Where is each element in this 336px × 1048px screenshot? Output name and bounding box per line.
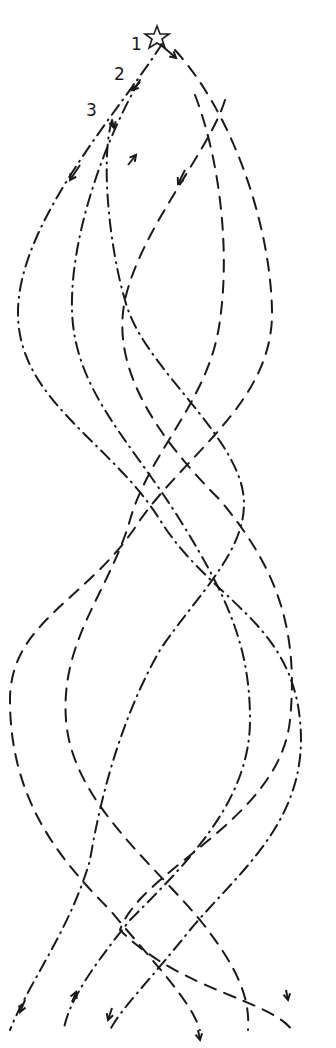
label-1: 1: [131, 34, 142, 54]
braid-diagram: 1 2 3: [0, 0, 336, 1048]
strand-dashed-a: [18, 44, 301, 1030]
arrow-icon: [132, 82, 140, 90]
braid-canvas: 1 2 3: [0, 0, 336, 1048]
strand-dashed-c: [66, 95, 249, 1030]
arrow-icon: [128, 155, 136, 165]
arrow-icon: [196, 1030, 203, 1040]
star-icon: [145, 26, 169, 48]
arrow-icon: [107, 1008, 113, 1020]
strand-dashdot-b: [10, 50, 272, 1030]
strands-group: [10, 44, 301, 1030]
arrow-icon: [284, 990, 291, 1000]
strand-dashed-b: [10, 120, 244, 1030]
arrow-icon: [19, 1000, 25, 1012]
label-2: 2: [114, 64, 125, 84]
label-3: 3: [86, 100, 97, 120]
